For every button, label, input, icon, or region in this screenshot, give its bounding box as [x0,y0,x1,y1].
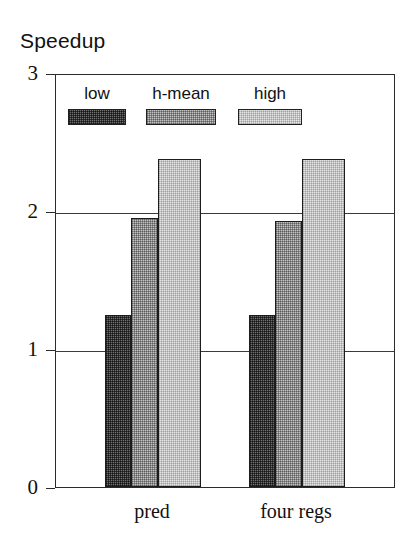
medium-dither-swatch [146,109,216,125]
legend-entry-high: high [238,84,302,125]
legend: low h-mean high [68,84,316,142]
y-tickmark-1 [46,350,55,351]
legend-label-h-mean: h-mean [146,84,216,104]
bar-four-regs-h-mean [275,221,302,487]
y-tick-label-1: 1 [12,337,38,362]
speedup-bar-chart-figure: Speedup 0123 low h-mean high predfour re… [0,0,415,547]
bar-pred-high [158,159,201,487]
y-tick-label-0: 0 [12,475,38,500]
bar-pred-low [105,315,131,488]
legend-entry-h-mean: h-mean [146,84,216,125]
legend-label-low: low [68,84,126,104]
light-dither-swatch [238,109,302,125]
bar-four-regs-high [302,159,345,487]
y-tick-label-2: 2 [12,199,38,224]
bar-four-regs-low [249,315,275,488]
bar-pred-h-mean [131,218,158,487]
legend-label-high: high [238,84,302,104]
dark-dither-swatch [68,109,126,125]
y-tickmark-2 [46,212,55,213]
y-tick-label-3: 3 [12,61,38,86]
y-tickmark-0 [46,488,55,489]
legend-entry-low: low [68,84,126,125]
y-tickmark-3 [46,74,55,75]
x-tick-label-pred: pred [82,500,222,523]
x-tick-label-four-regs: four regs [226,500,366,523]
page-title: Speedup [20,29,105,53]
